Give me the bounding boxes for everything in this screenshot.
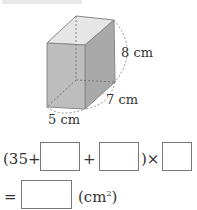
depth-label: 7 cm — [106, 92, 138, 107]
eq-plus: + — [83, 150, 96, 168]
answer-blank-1[interactable] — [40, 142, 80, 171]
width-label: 5 cm — [48, 112, 80, 127]
answer-blank-3[interactable] — [162, 142, 192, 171]
eq-open: (35+ — [3, 150, 41, 168]
height-label: 8 cm — [121, 45, 153, 60]
unit-close: ) — [112, 188, 118, 206]
eq-equals: = — [4, 188, 17, 206]
answer-blank-4[interactable] — [21, 180, 72, 209]
unit-text: (cm — [78, 188, 106, 206]
prism-diagram — [0, 0, 197, 130]
eq-close-times: )× — [141, 150, 159, 168]
eq-unit: (cm2) — [78, 188, 117, 206]
prism-front-face — [47, 43, 85, 109]
answer-blank-2[interactable] — [99, 142, 139, 171]
